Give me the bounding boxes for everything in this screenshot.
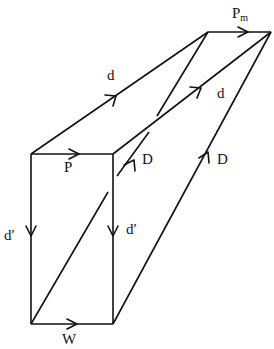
- edge-D-inner-seg1: [31, 192, 108, 324]
- label-Pm-sub: m: [240, 12, 248, 23]
- vector-diagram: P W Pm d d D D d′ d′: [0, 0, 274, 349]
- label-Pm: Pm: [232, 6, 248, 23]
- label-D-inner: D: [142, 152, 153, 167]
- label-d-prime-left: d′: [4, 228, 15, 243]
- edge-D-outer: [113, 32, 271, 324]
- arrow-d-upper-icon: [105, 95, 116, 106]
- label-d-upper: d: [107, 68, 115, 83]
- diagram-canvas: [0, 0, 274, 349]
- label-W: W: [62, 332, 76, 347]
- edge-d-middle: [113, 32, 271, 154]
- label-P: P: [64, 160, 72, 175]
- label-D-outer: D: [217, 152, 228, 167]
- edge-d-upper: [31, 32, 208, 154]
- edge-D-inner-seg3: [157, 32, 208, 116]
- label-d-prime-right: d′: [126, 222, 137, 237]
- label-d-middle: d: [217, 86, 225, 101]
- arrow-D-inner-icon: [124, 160, 135, 171]
